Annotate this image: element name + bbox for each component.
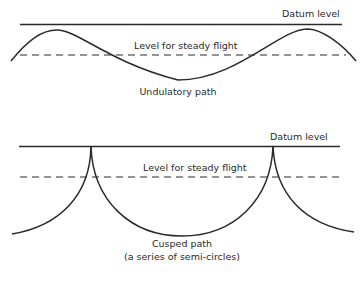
datum-level-label-bottom: Datum level: [270, 131, 328, 142]
undulatory-panel: Datum level Level for steady flight Undu…: [11, 8, 356, 97]
cusped-path-subcaption: (a series of semi-circles): [124, 251, 240, 262]
cusped-arc-middle: [91, 146, 273, 236]
flight-path-diagram: Datum level Level for steady flight Undu…: [0, 0, 360, 299]
steady-level-label-top: Level for steady flight: [134, 40, 238, 51]
cusped-path-caption: Cusped path: [152, 238, 212, 249]
cusped-panel: Datum level Level for steady flight Cusp…: [12, 131, 354, 262]
steady-level-label-bottom: Level for steady flight: [143, 162, 247, 173]
datum-level-label-top: Datum level: [282, 8, 340, 19]
undulatory-path-caption: Undulatory path: [139, 86, 216, 97]
cusped-arc-left: [12, 147, 91, 234]
cusped-arc-right: [273, 146, 354, 232]
